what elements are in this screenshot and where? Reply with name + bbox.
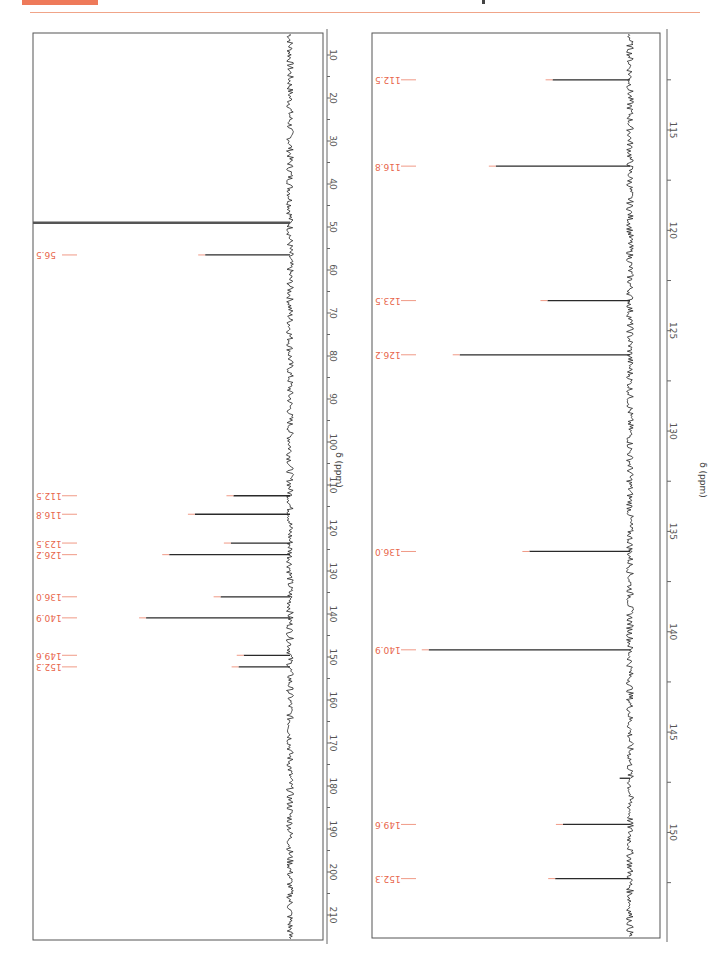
peak-label: 136.0 (375, 547, 401, 557)
peak-label: 140.9 (375, 645, 401, 655)
tick-label: 170 (328, 734, 338, 751)
tick-label: 10 (328, 49, 338, 61)
tick-label: 130 (668, 422, 678, 439)
spectrum-panel-full: 1020304050607080901001101201301401501601… (33, 29, 344, 944)
tick-label: 140 (328, 605, 338, 622)
tick-label: 120 (668, 222, 678, 239)
tick-label: 60 (328, 264, 338, 276)
tick-label: 120 (328, 519, 338, 536)
tick-label: 70 (328, 307, 338, 319)
peak-label: 116.8 (36, 510, 62, 520)
peak-label: 152.3 (36, 662, 62, 672)
tick-label: 130 (328, 562, 338, 579)
tick-label: 200 (328, 863, 338, 880)
plot-frame (33, 33, 323, 940)
tick-label: 90 (328, 393, 338, 405)
peak-label: 126.2 (36, 550, 62, 560)
peak-label: 152.3 (375, 874, 401, 884)
tick-label: 190 (328, 820, 338, 837)
tick-label: 50 (328, 221, 338, 233)
peak-label: 112.5 (36, 491, 62, 501)
tick-label: 160 (328, 691, 338, 708)
tick-label: 135 (668, 523, 678, 540)
peak-label: 149.6 (36, 651, 62, 661)
tick-label: 115 (668, 121, 678, 138)
tick-label: 140 (668, 623, 678, 640)
peak-label: 136.0 (36, 592, 62, 602)
plot-frame (372, 33, 660, 938)
peak-label: 112.5 (375, 75, 401, 85)
peak-label: 123.5 (375, 296, 401, 306)
peak-label: 126.2 (375, 350, 401, 360)
peak-label: 123.5 (36, 539, 62, 549)
peak-label: 116.8 (375, 162, 401, 172)
tick-label: 40 (328, 178, 338, 190)
peak-label: 56.5 (36, 250, 56, 260)
tick-label: 150 (328, 648, 338, 665)
tick-label: 150 (668, 824, 678, 841)
tick-label: 210 (328, 906, 338, 923)
nmr-spectra-figure: 1020304050607080901001101201301401501601… (0, 0, 725, 975)
axis-title: δ (ppm) (698, 462, 708, 498)
tick-label: 180 (328, 777, 338, 794)
peak-label: 140.9 (36, 613, 62, 623)
tick-label: 20 (328, 92, 338, 104)
baseline-noise (627, 34, 634, 936)
peak-label: 149.6 (375, 820, 401, 830)
tick-label: 145 (668, 724, 678, 741)
tick-label: 100 (328, 433, 338, 450)
spectrum-panel-expansion: 115120125130135140145150δ (ppm)112.5116.… (372, 29, 708, 942)
axis-title: δ (ppm) (334, 452, 344, 488)
tick-label: 80 (328, 350, 338, 362)
tick-label: 125 (668, 322, 678, 339)
baseline-noise (287, 34, 294, 939)
tick-label: 30 (328, 135, 338, 147)
